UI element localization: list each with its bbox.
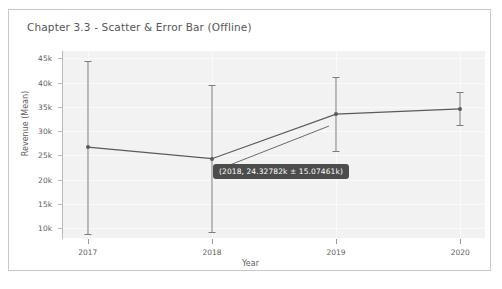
x-axis-tick-mark [460,239,461,244]
gridline-horizontal [63,228,485,229]
y-axis-tick-label: 35k [38,102,52,111]
y-axis-tick-mark: 45k [58,58,62,59]
y-axis-line [62,51,63,239]
chart-figure-frame: Chapter 3.3 - Scatter & Error Bar (Offli… [8,9,491,271]
y-axis-tick-mark: 10k [58,228,62,229]
gridline-vertical [460,51,461,238]
y-axis-tick-label: 15k [38,200,52,209]
x-axis-title: Year [9,259,491,268]
gridline-vertical [212,51,213,238]
x-axis-tick-label: 2018 [202,248,221,257]
y-axis-tick-label: 10k [38,224,52,233]
y-axis-title: Revenue (Mean) [21,64,30,184]
x-axis-tick-label: 2019 [327,248,346,257]
y-axis-tick-mark: 25k [58,155,62,156]
y-axis-tick-label: 25k [38,151,52,160]
y-axis-tick-mark: 35k [58,107,62,108]
gridline-horizontal [63,180,485,181]
y-axis-tick-mark: 40k [58,83,62,84]
y-axis-tick-label: 20k [38,175,52,184]
x-axis-tick-label: 2020 [451,248,470,257]
y-axis-tick-mark: 20k [58,180,62,181]
data-point-tooltip[interactable]: (2018, 24.32782k ± 15.07461k) [213,164,349,179]
gridline-horizontal [63,204,485,205]
y-axis-tick-label: 30k [38,127,52,136]
x-axis-tick-mark [212,239,213,244]
y-axis-tick-mark: 30k [58,131,62,132]
x-axis-tick-mark [88,239,89,244]
x-axis-tick-mark [336,239,337,244]
gridline-horizontal [63,107,485,108]
y-axis-tick-label: 40k [38,78,52,87]
y-axis-tick-mark: 15k [58,204,62,205]
gridline-horizontal [63,58,485,59]
gridline-vertical [336,51,337,238]
y-axis-tick-label: 45k [38,54,52,63]
gridline-vertical [88,51,89,238]
gridline-horizontal [63,83,485,84]
x-axis-tick-label: 2017 [78,248,97,257]
chart-title: Chapter 3.3 - Scatter & Error Bar (Offli… [27,21,252,33]
